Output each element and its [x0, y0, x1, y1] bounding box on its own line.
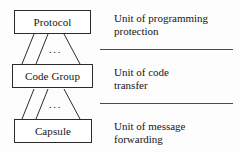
node-protocol: Protocol	[14, 10, 91, 34]
annotation-divider-1	[100, 49, 233, 50]
node-capsule: Capsule	[14, 119, 92, 143]
connector-ellipsis-lower: ...	[48, 99, 63, 110]
connector-protocol-right-1	[64, 34, 80, 64]
connector-codegroup-left-1	[22, 89, 34, 119]
connector-codegroup-right-1	[64, 89, 80, 119]
connector-codegroup-left-2	[36, 89, 48, 119]
connector-ellipsis-upper: ...	[48, 44, 63, 55]
node-capsule-label: Capsule	[35, 126, 71, 137]
diagram-canvas: ... ... Protocol Code Group Capsule Unit…	[0, 0, 240, 152]
annotation-divider-2	[100, 103, 233, 104]
connector-protocol-left-2	[36, 34, 48, 64]
node-protocol-label: Protocol	[33, 17, 71, 28]
connector-protocol-left-1	[22, 34, 34, 64]
node-code-group-label: Code Group	[25, 71, 80, 82]
node-code-group: Code Group	[12, 64, 93, 88]
